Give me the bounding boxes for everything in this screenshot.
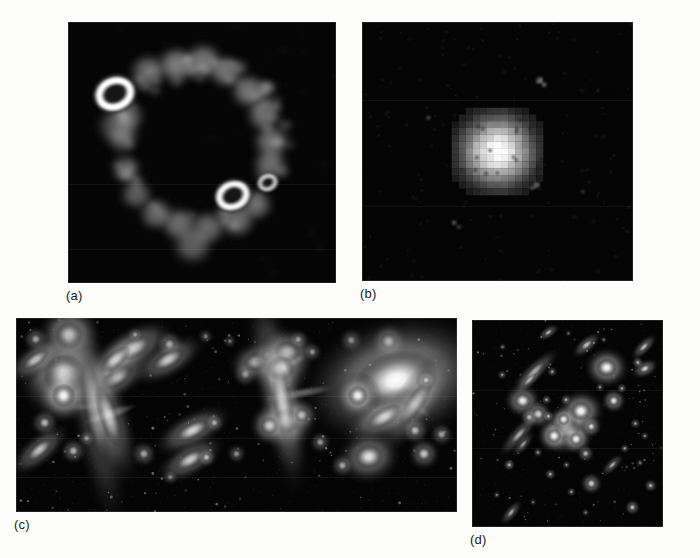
panel-c-image (16, 318, 457, 512)
figure-container: (a) (b) (c) (0, 0, 700, 558)
panel-b-label: (b) (360, 286, 377, 301)
panel-d-label: (d) (470, 532, 487, 547)
panel-a (68, 22, 336, 283)
panel-d (472, 320, 663, 527)
panel-a-label: (a) (66, 288, 83, 303)
panel-a-image (68, 22, 336, 283)
panel-c-label: (c) (14, 517, 30, 532)
panel-b-image (362, 22, 633, 281)
panel-c (16, 318, 457, 512)
panel-d-image (472, 320, 663, 527)
panel-b (362, 22, 633, 281)
